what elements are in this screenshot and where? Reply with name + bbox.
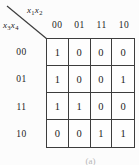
column-variable-label: x1x2 xyxy=(27,5,43,15)
kmap-cell: 1 xyxy=(112,120,134,147)
kmap-cell: 1 xyxy=(91,120,113,147)
kmap-cell: 1 xyxy=(47,66,69,93)
kmap-cell: 0 xyxy=(47,120,69,147)
column-header: 00 xyxy=(46,20,68,33)
kmap-cell: 0 xyxy=(112,39,134,66)
column-header: 01 xyxy=(68,20,90,33)
kmap-cell: 0 xyxy=(69,120,91,147)
kmap-grid: 1 0 0 0 1 0 0 1 1 1 0 0 0 0 1 1 xyxy=(46,38,135,148)
kmap-cell: 1 xyxy=(112,66,134,93)
column-header: 10 xyxy=(113,20,135,33)
row-header: 10 xyxy=(0,121,43,149)
kmap-cell: 0 xyxy=(91,66,113,93)
kmap-cell: 1 xyxy=(69,93,91,120)
row-header: 11 xyxy=(0,93,43,121)
kmap-cell: 0 xyxy=(91,39,113,66)
kmap-cell: 0 xyxy=(69,39,91,66)
figure-caption: (a) xyxy=(46,156,135,165)
row-header: 01 xyxy=(0,66,43,94)
kmap-cell: 1 xyxy=(47,39,69,66)
row-header: 00 xyxy=(0,38,43,66)
karnaugh-map-figure: x1x2 x3x4 00 01 11 10 00 01 11 10 1 0 0 … xyxy=(0,0,139,165)
kmap-cell: 0 xyxy=(69,66,91,93)
row-headers: 00 01 11 10 xyxy=(0,38,43,148)
column-headers: 00 01 11 10 xyxy=(46,20,135,33)
row-variable-label: x3x4 xyxy=(3,20,19,30)
kmap-cell: 0 xyxy=(91,93,113,120)
column-header: 11 xyxy=(91,20,113,33)
kmap-cell: 1 xyxy=(47,93,69,120)
kmap-cell: 0 xyxy=(112,93,134,120)
